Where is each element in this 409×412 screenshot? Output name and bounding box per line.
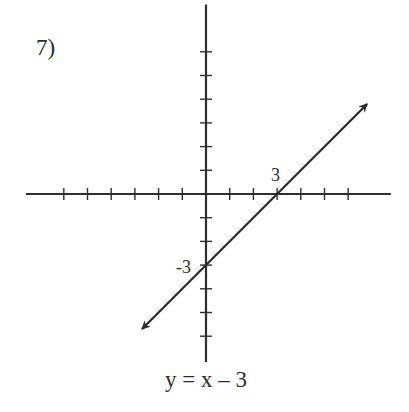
x-intercept-label: 3	[271, 166, 280, 184]
plotted-line	[142, 104, 367, 329]
y-intercept-label: -3	[176, 258, 191, 276]
equation-label: y = x – 3	[165, 368, 247, 391]
coordinate-plane	[0, 0, 409, 412]
line-y-equals-x-minus-3	[142, 104, 367, 329]
graph-figure: 7) 3 -3 y = x – 3	[0, 0, 409, 412]
axes	[26, 4, 391, 362]
problem-number: 7)	[36, 36, 55, 59]
